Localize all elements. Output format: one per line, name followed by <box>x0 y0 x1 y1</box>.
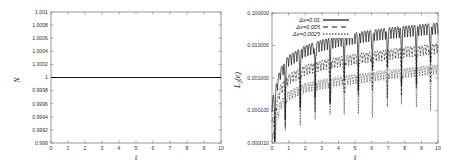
right-y-tick-label: 0.010000 <box>247 42 269 48</box>
legend-label-dx-0.005: Δx=0.005 <box>295 24 321 30</box>
right-x-tick-label: 10 <box>435 145 441 151</box>
left-plot: 1.0011.00081.00061.00041.000210.99980.99… <box>13 9 224 162</box>
left-y-tick-label: 1.0004 <box>32 48 48 54</box>
left-y-tick-label: 1 <box>45 74 48 80</box>
left-x-axis-label: t <box>135 153 138 162</box>
left-x-tick-label: 9 <box>203 145 206 151</box>
right-x-tick-label: 8 <box>403 145 406 151</box>
right-x-tick-label: 6 <box>370 145 373 151</box>
legend: Δx=0.01 Δx=0.005 Δx=0.0025 <box>278 16 354 38</box>
left-y-axis-label: N <box>13 77 22 84</box>
left-x-tick-label: 4 <box>118 145 121 151</box>
right-series-group <box>272 23 438 142</box>
right-y-tick-label: 0.001000 <box>247 75 269 81</box>
right-y-tick-label: 0.000100 <box>247 107 269 113</box>
right-x-tick-label: 9 <box>420 145 423 151</box>
figure: 1.0011.00081.00061.00041.000210.99980.99… <box>0 0 457 168</box>
left-x-tick-label: 6 <box>152 145 155 151</box>
left-y-tick-label: 1.0008 <box>32 22 48 28</box>
right-x-tick-label: 1 <box>287 145 290 151</box>
left-y-tick-label: 0.9994 <box>32 114 48 120</box>
left-y-tick-label: 0.9996 <box>32 101 48 107</box>
right-y-tick-label: 0.000010 <box>247 140 269 146</box>
left-x-tick-label: 5 <box>135 145 138 151</box>
left-x-tick-label: 8 <box>186 145 189 151</box>
right-y-tick-label: 0.100000 <box>247 10 269 16</box>
left-y-tick-label: 0.9998 <box>32 87 48 93</box>
left-y-tick-label: 1.0006 <box>32 35 48 41</box>
left-y-tick-label: 0.999 <box>35 140 48 146</box>
right-x-tick-label: 7 <box>387 145 390 151</box>
left-y-tick-label: 1.001 <box>35 9 48 15</box>
right-plot: 0.1000000.0100000.0010000.0001000.000010… <box>233 10 441 162</box>
left-x-tick-label: 0 <box>50 145 53 151</box>
right-x-tick-label: 5 <box>354 145 357 151</box>
left-x-tick-label: 1 <box>67 145 70 151</box>
right-x-tick-label: 0 <box>271 145 274 151</box>
left-y-tick-label: 1.0002 <box>32 61 48 67</box>
left-x-tick-label: 2 <box>84 145 87 151</box>
right-y-axis-label: L2(e) <box>233 72 243 89</box>
series-solid-line <box>272 23 438 142</box>
left-x-tick-label: 7 <box>169 145 172 151</box>
right-x-axis-label: t <box>354 153 357 162</box>
series-dotted-line <box>272 65 438 142</box>
legend-label-dx-0.0025: Δx=0.0025 <box>292 31 321 37</box>
legend-label-dx-0.01: Δx=0.01 <box>298 17 320 23</box>
left-x-tick-label: 10 <box>218 145 224 151</box>
left-x-tick-label: 3 <box>101 145 104 151</box>
right-x-tick-label: 4 <box>337 145 340 151</box>
left-x-ticks: 012345678910 <box>50 12 224 151</box>
right-x-tick-label: 2 <box>304 145 307 151</box>
right-x-tick-label: 3 <box>320 145 323 151</box>
left-y-tick-label: 0.9992 <box>32 127 48 133</box>
